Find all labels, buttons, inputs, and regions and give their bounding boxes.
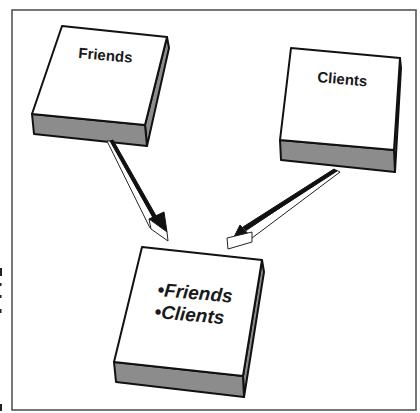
arrowhead-base [227,232,252,249]
arrow-shaft-dark [110,140,159,223]
arrow-shaft-light [244,170,340,238]
arrow-friends-to-merged [107,140,168,241]
arrow-clients-to-merged [227,169,340,249]
arrow-shaft-dark [243,169,337,230]
friends-list-box: Friends [32,26,169,146]
clients-list-box: Clients [280,48,401,172]
margin-marks [0,268,2,411]
merge-diagram: Friends Clients •Friends •Clients [0,0,420,413]
arrow-shaft-light [107,141,157,228]
clients-box-top [280,48,400,150]
merged-list-box: •Friends •Clients [114,247,264,397]
friends-box-top [32,26,167,125]
